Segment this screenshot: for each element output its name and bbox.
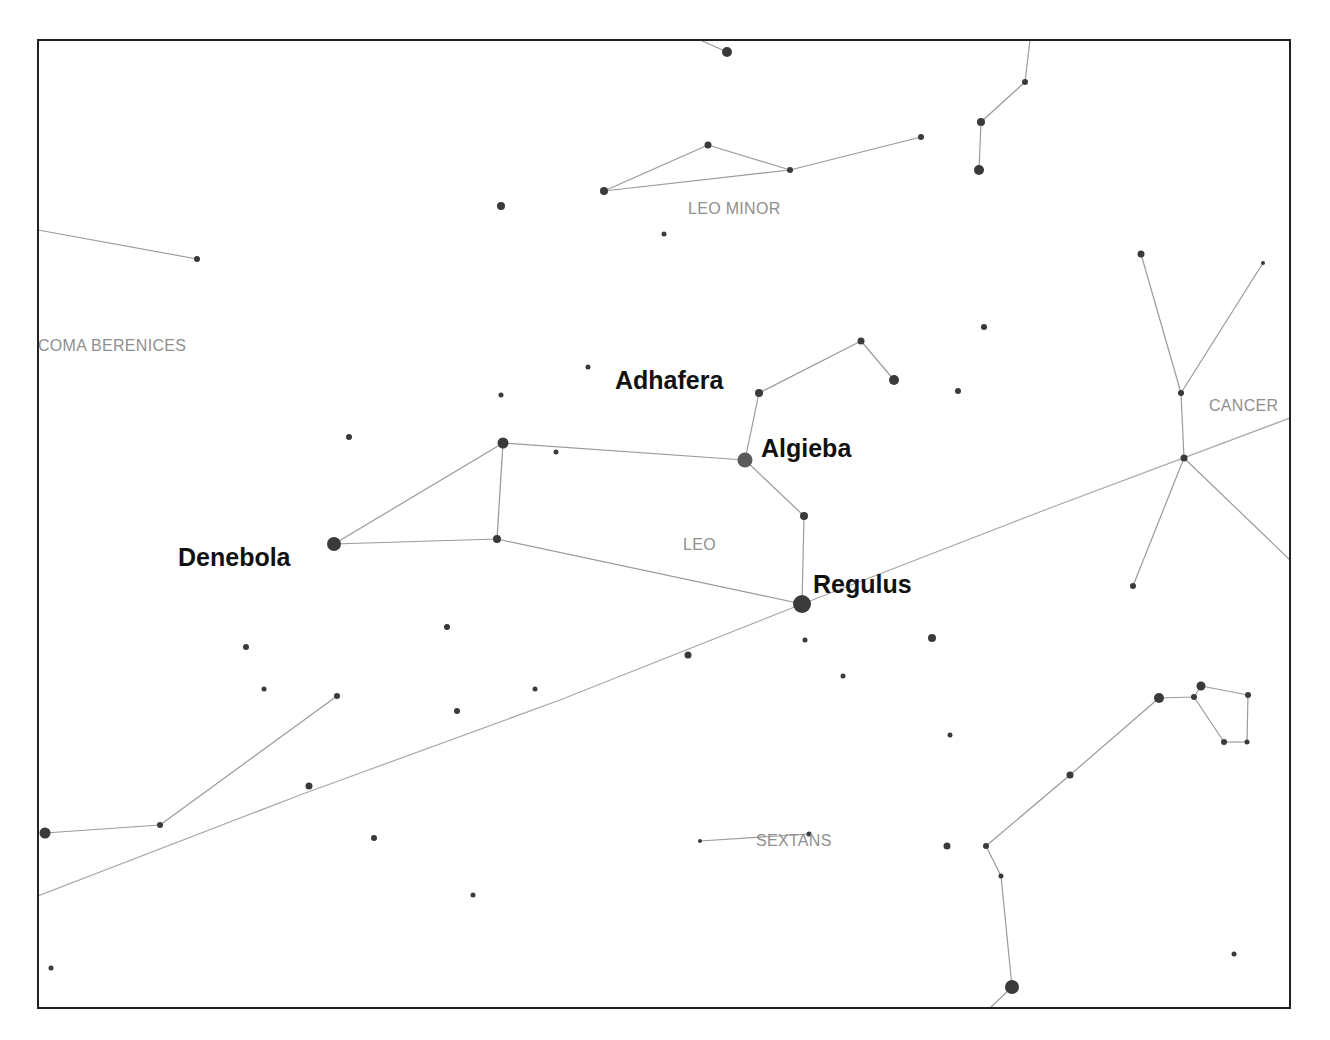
constellation-line	[1001, 876, 1012, 987]
star	[698, 839, 702, 843]
star	[974, 165, 984, 175]
star	[1181, 455, 1188, 462]
star	[1130, 583, 1136, 589]
star	[1067, 772, 1074, 779]
star	[977, 118, 985, 126]
star-chart: LEO MINOR COMA BERENICES CANCER LEO SEXT…	[0, 0, 1330, 1040]
star-ras-elased-borealis	[858, 338, 865, 345]
star	[454, 708, 460, 714]
star	[554, 450, 559, 455]
star	[1245, 692, 1251, 698]
star	[499, 393, 504, 398]
star	[1261, 261, 1265, 265]
constellation-line	[986, 775, 1070, 846]
star	[1221, 739, 1227, 745]
star	[1178, 390, 1184, 396]
star	[40, 828, 51, 839]
star-algieba	[738, 453, 753, 468]
constellation-labels: LEO MINOR COMA BERENICES CANCER LEO SEXT…	[38, 200, 1278, 849]
constellation-lines	[38, 40, 1290, 1008]
star	[955, 388, 961, 394]
star	[705, 142, 712, 149]
constellation-line	[334, 539, 497, 544]
constellation-line	[1247, 695, 1248, 742]
star-regulus	[793, 595, 811, 613]
constellation-line	[708, 145, 790, 170]
star	[787, 167, 793, 173]
star	[243, 644, 249, 650]
constellation-line	[1201, 686, 1248, 695]
ecliptic-line	[38, 418, 1290, 896]
label-sextans: SEXTANS	[756, 832, 832, 849]
star	[685, 652, 692, 659]
star	[262, 687, 267, 692]
constellation-line	[1025, 40, 1030, 82]
star	[497, 202, 505, 210]
constellation-line	[1141, 254, 1181, 393]
star	[948, 733, 953, 738]
label-leo-minor: LEO MINOR	[688, 200, 781, 217]
label-regulus: Regulus	[813, 570, 912, 598]
star	[1197, 682, 1206, 691]
constellation-line	[160, 696, 337, 825]
star	[1154, 693, 1164, 703]
constellation-line	[802, 516, 804, 604]
star	[1191, 694, 1197, 700]
constellation-line	[790, 137, 921, 170]
constellation-line	[38, 230, 197, 259]
star-adhafera	[755, 389, 763, 397]
constellation-line	[986, 846, 1001, 876]
star	[1245, 740, 1250, 745]
constellation-line	[1194, 697, 1224, 742]
star	[586, 365, 591, 370]
star	[1232, 952, 1237, 957]
constellation-line	[45, 825, 160, 833]
star	[1022, 79, 1028, 85]
star	[194, 256, 200, 262]
star	[334, 693, 340, 699]
star	[841, 674, 846, 679]
label-adhafera: Adhafera	[615, 366, 724, 394]
constellation-line	[759, 341, 861, 393]
constellation-line	[1159, 697, 1194, 698]
star	[803, 638, 808, 643]
star	[471, 893, 476, 898]
star-labels: Adhafera Algieba Denebola Regulus	[178, 366, 912, 598]
constellation-line	[981, 82, 1025, 122]
constellation-line	[604, 170, 790, 191]
constellation-line	[745, 393, 759, 460]
map-frame	[38, 40, 1290, 1008]
star	[722, 47, 732, 57]
star	[928, 634, 936, 642]
star	[1005, 980, 1019, 994]
constellation-line	[1184, 458, 1290, 560]
star	[157, 822, 163, 828]
constellation-line	[497, 443, 503, 539]
star	[981, 324, 987, 330]
star	[306, 783, 313, 790]
constellation-line	[979, 122, 981, 170]
star-ras-elased-australis	[889, 375, 899, 385]
star	[49, 966, 54, 971]
star-denebola	[327, 537, 341, 551]
star	[662, 232, 667, 237]
star	[371, 835, 377, 841]
label-algieba: Algieba	[761, 434, 852, 462]
constellation-line	[604, 145, 708, 191]
star-zosma	[498, 438, 509, 449]
star	[600, 187, 608, 195]
constellation-line	[497, 539, 802, 604]
star	[983, 843, 989, 849]
constellation-line	[861, 341, 894, 380]
stars	[40, 47, 1266, 994]
constellation-line	[503, 443, 745, 460]
constellation-line	[1133, 458, 1184, 586]
label-coma-berenices: COMA BERENICES	[38, 337, 186, 354]
star	[944, 843, 951, 850]
label-cancer: CANCER	[1209, 397, 1278, 414]
star	[444, 624, 450, 630]
label-leo: LEO	[683, 536, 716, 553]
label-denebola: Denebola	[178, 543, 292, 571]
star	[346, 434, 352, 440]
star-eta-leonis	[800, 512, 808, 520]
